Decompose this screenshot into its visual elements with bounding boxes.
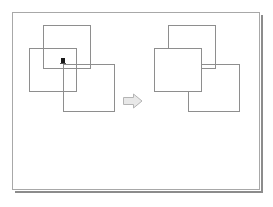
- pointer-marker[interactable]: [61, 58, 65, 63]
- transition-arrow-icon: [123, 93, 143, 109]
- rectangle-a[interactable]: [43, 25, 91, 69]
- rectangle-b[interactable]: [154, 48, 202, 92]
- frame-shadow-bottom: [15, 191, 262, 193]
- diagram-canvas: [12, 12, 260, 190]
- after-state: [154, 19, 254, 119]
- rectangle-c[interactable]: [63, 64, 115, 112]
- before-state: [29, 19, 129, 119]
- frame-shadow-right: [261, 15, 263, 193]
- screenshot-root: [0, 0, 273, 207]
